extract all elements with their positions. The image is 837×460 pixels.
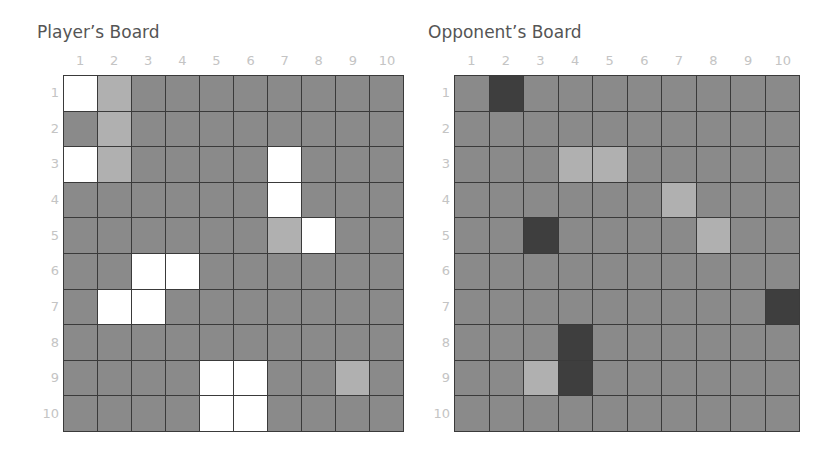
opponent-cell-r10-c4[interactable]: [559, 396, 593, 431]
opponent-cell-r10-c6[interactable]: [628, 396, 662, 431]
opponent-cell-r7-c10[interactable]: [766, 290, 800, 325]
opponent-cell-r7-c4[interactable]: [559, 290, 593, 325]
opponent-cell-r7-c7[interactable]: [662, 290, 696, 325]
opponent-cell-r9-c6[interactable]: [628, 361, 662, 396]
opponent-cell-r1-c1[interactable]: [455, 76, 489, 111]
opponent-cell-r8-c3[interactable]: [524, 325, 558, 360]
opponent-cell-r9-c2[interactable]: [490, 361, 524, 396]
opponent-cell-r8-c8[interactable]: [697, 325, 731, 360]
opponent-cell-r10-c1[interactable]: [455, 396, 489, 431]
opponent-cell-r3-c3[interactable]: [524, 147, 558, 182]
opponent-cell-r4-c10[interactable]: [766, 183, 800, 218]
opponent-cell-r9-c10[interactable]: [766, 361, 800, 396]
opponent-cell-r2-c4[interactable]: [559, 112, 593, 147]
opponent-cell-r4-c5[interactable]: [593, 183, 627, 218]
opponent-cell-r1-c2[interactable]: [490, 76, 524, 111]
opponent-cell-r5-c9[interactable]: [731, 218, 765, 253]
opponent-cell-r9-c1[interactable]: [455, 361, 489, 396]
opponent-cell-r6-c6[interactable]: [628, 254, 662, 289]
opponent-cell-r6-c8[interactable]: [697, 254, 731, 289]
opponent-cell-r3-c8[interactable]: [697, 147, 731, 182]
opponent-cell-r5-c4[interactable]: [559, 218, 593, 253]
opponent-cell-r9-c7[interactable]: [662, 361, 696, 396]
opponent-cell-r10-c7[interactable]: [662, 396, 696, 431]
opponent-cell-r4-c6[interactable]: [628, 183, 662, 218]
opponent-cell-r9-c3[interactable]: [524, 361, 558, 396]
opponent-cell-r8-c5[interactable]: [593, 325, 627, 360]
opponent-cell-r2-c5[interactable]: [593, 112, 627, 147]
opponent-cell-r10-c8[interactable]: [697, 396, 731, 431]
opponent-cell-r3-c9[interactable]: [731, 147, 765, 182]
opponent-cell-r5-c5[interactable]: [593, 218, 627, 253]
opponent-cell-r6-c4[interactable]: [559, 254, 593, 289]
opponent-cell-r5-c8[interactable]: [697, 218, 731, 253]
opponent-cell-r6-c1[interactable]: [455, 254, 489, 289]
opponent-cell-r1-c8[interactable]: [697, 76, 731, 111]
opponent-cell-r3-c7[interactable]: [662, 147, 696, 182]
opponent-cell-r7-c6[interactable]: [628, 290, 662, 325]
opponent-cell-r1-c6[interactable]: [628, 76, 662, 111]
opponent-cell-r6-c3[interactable]: [524, 254, 558, 289]
opponent-cell-r5-c3[interactable]: [524, 218, 558, 253]
opponent-cell-r1-c7[interactable]: [662, 76, 696, 111]
opponent-cell-r1-c4[interactable]: [559, 76, 593, 111]
opponent-cell-r4-c3[interactable]: [524, 183, 558, 218]
opponent-cell-r5-c7[interactable]: [662, 218, 696, 253]
opponent-cell-r3-c4[interactable]: [559, 147, 593, 182]
opponent-cell-r4-c8[interactable]: [697, 183, 731, 218]
opponent-cell-r5-c2[interactable]: [490, 218, 524, 253]
opponent-cell-r9-c4[interactable]: [559, 361, 593, 396]
opponent-cell-r10-c3[interactable]: [524, 396, 558, 431]
opponent-cell-r9-c8[interactable]: [697, 361, 731, 396]
opponent-cell-r8-c6[interactable]: [628, 325, 662, 360]
opponent-cell-r2-c6[interactable]: [628, 112, 662, 147]
opponent-cell-r2-c9[interactable]: [731, 112, 765, 147]
opponent-cell-r2-c2[interactable]: [490, 112, 524, 147]
opponent-cell-r8-c7[interactable]: [662, 325, 696, 360]
opponent-cell-r4-c4[interactable]: [559, 183, 593, 218]
opponent-cell-r8-c1[interactable]: [455, 325, 489, 360]
opponent-cell-r6-c7[interactable]: [662, 254, 696, 289]
opponent-cell-r2-c10[interactable]: [766, 112, 800, 147]
opponent-cell-r6-c2[interactable]: [490, 254, 524, 289]
opponent-cell-r6-c5[interactable]: [593, 254, 627, 289]
opponent-cell-r3-c5[interactable]: [593, 147, 627, 182]
opponent-cell-r10-c2[interactable]: [490, 396, 524, 431]
opponent-cell-r4-c9[interactable]: [731, 183, 765, 218]
opponent-cell-r3-c2[interactable]: [490, 147, 524, 182]
opponent-cell-r7-c1[interactable]: [455, 290, 489, 325]
opponent-cell-r3-c10[interactable]: [766, 147, 800, 182]
opponent-cell-r6-c10[interactable]: [766, 254, 800, 289]
opponent-cell-r7-c3[interactable]: [524, 290, 558, 325]
opponent-cell-r5-c10[interactable]: [766, 218, 800, 253]
opponent-cell-r10-c5[interactable]: [593, 396, 627, 431]
opponent-cell-r7-c5[interactable]: [593, 290, 627, 325]
opponent-cell-r1-c3[interactable]: [524, 76, 558, 111]
opponent-cell-r10-c9[interactable]: [731, 396, 765, 431]
opponent-cell-r10-c10[interactable]: [766, 396, 800, 431]
opponent-cell-r2-c3[interactable]: [524, 112, 558, 147]
opponent-cell-r8-c10[interactable]: [766, 325, 800, 360]
opponent-cell-r9-c9[interactable]: [731, 361, 765, 396]
opponent-cell-r1-c9[interactable]: [731, 76, 765, 111]
opponent-cell-r1-c5[interactable]: [593, 76, 627, 111]
opponent-cell-r7-c9[interactable]: [731, 290, 765, 325]
opponent-cell-r4-c1[interactable]: [455, 183, 489, 218]
opponent-cell-r1-c10[interactable]: [766, 76, 800, 111]
opponent-cell-r9-c5[interactable]: [593, 361, 627, 396]
opponent-cell-r4-c7[interactable]: [662, 183, 696, 218]
opponent-cell-r6-c9[interactable]: [731, 254, 765, 289]
opponent-cell-r8-c9[interactable]: [731, 325, 765, 360]
opponent-cell-r7-c2[interactable]: [490, 290, 524, 325]
opponent-cell-r2-c7[interactable]: [662, 112, 696, 147]
opponent-cell-r8-c2[interactable]: [490, 325, 524, 360]
opponent-cell-r2-c8[interactable]: [697, 112, 731, 147]
opponent-cell-r2-c1[interactable]: [455, 112, 489, 147]
opponent-cell-r8-c4[interactable]: [559, 325, 593, 360]
opponent-cell-r7-c8[interactable]: [697, 290, 731, 325]
opponent-cell-r5-c6[interactable]: [628, 218, 662, 253]
opponent-cell-r3-c6[interactable]: [628, 147, 662, 182]
opponent-cell-r3-c1[interactable]: [455, 147, 489, 182]
opponent-cell-r4-c2[interactable]: [490, 183, 524, 218]
opponent-cell-r5-c1[interactable]: [455, 218, 489, 253]
